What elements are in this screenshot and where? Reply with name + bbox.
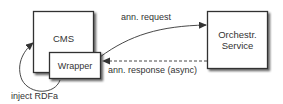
response-label: ann. response (async) bbox=[108, 65, 197, 75]
orchestrator-label-line2: Service bbox=[207, 40, 268, 51]
orchestrator-label-line1: Orchestr. bbox=[207, 29, 268, 40]
inject-label: inject RDFa bbox=[11, 91, 58, 101]
orchestrator-label: Orchestr. Service bbox=[207, 29, 268, 51]
cms-label: CMS bbox=[33, 33, 94, 44]
wrapper-label: Wrapper bbox=[49, 61, 101, 72]
request-arrow bbox=[100, 25, 206, 57]
request-label: ann. request bbox=[121, 12, 171, 22]
